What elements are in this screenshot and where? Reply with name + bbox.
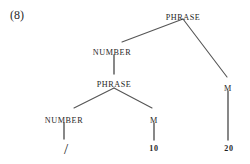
tree-node-m-inner: M (150, 116, 158, 125)
tree-node-phrase-inner: PHRASE (97, 80, 132, 89)
tree-node-number-lower: NUMBER (45, 116, 83, 125)
tree-edge (183, 19, 227, 77)
tree-node-phrase-root: PHRASE (166, 13, 201, 22)
tree-node-number-upper: NUMBER (93, 48, 131, 57)
tree-edge (74, 88, 114, 108)
tree-edge (114, 88, 152, 108)
tree-terminal-terminal-twenty: 20 (224, 144, 233, 153)
tree-edge (122, 19, 183, 42)
tree-node-m-root-right: M (224, 84, 232, 93)
figure-canvas: (8) PHRASENUMBERPHRASENUMBERMM/1020 (0, 0, 250, 164)
tree-terminal-terminal-slash: / (64, 142, 68, 157)
tree-terminal-terminal-ten: 10 (149, 144, 158, 153)
